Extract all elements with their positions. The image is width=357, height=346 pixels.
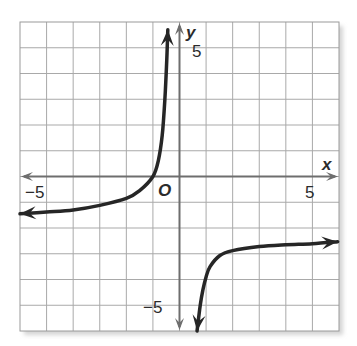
y-axis-label: y (185, 23, 197, 42)
rational-function-graph: x y O −5 5 5 −5 (0, 0, 357, 346)
origin-label: O (158, 181, 171, 200)
x-tick-label-neg5: −5 (25, 183, 44, 202)
x-axis-label: x (321, 155, 333, 174)
y-tick-label-5: 5 (192, 42, 201, 61)
x-tick-label-5: 5 (305, 183, 314, 202)
y-tick-label-neg5: −5 (143, 298, 162, 317)
